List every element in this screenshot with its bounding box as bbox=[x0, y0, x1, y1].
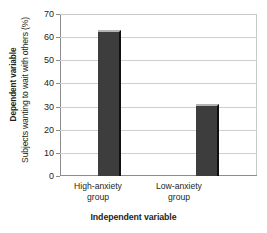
y-tick-label-50: 50 bbox=[44, 55, 54, 65]
y-tick-mark-20 bbox=[56, 130, 60, 131]
gridline-50 bbox=[60, 60, 257, 61]
y-axis-title: Subjects wanting to wait with others (%) bbox=[20, 10, 30, 170]
y-tick-label-10: 10 bbox=[44, 148, 54, 158]
gridline-40 bbox=[60, 83, 257, 84]
y-tick-label-0: 0 bbox=[49, 171, 54, 181]
y-tick-mark-50 bbox=[56, 60, 60, 61]
y-tick-label-40: 40 bbox=[44, 78, 54, 88]
gridline-60 bbox=[60, 37, 257, 38]
y-tick-mark-60 bbox=[56, 37, 60, 38]
y-tick-mark-30 bbox=[56, 107, 60, 108]
plot-area bbox=[60, 14, 257, 176]
gridline-10 bbox=[60, 153, 257, 154]
gridline-20 bbox=[60, 130, 257, 131]
y-tick-mark-70 bbox=[56, 14, 60, 15]
y-tick-mark-0 bbox=[56, 176, 60, 177]
y-tick-mark-10 bbox=[56, 153, 60, 154]
bar-chart-figure: Dependent variable Subjects wanting to w… bbox=[0, 0, 267, 233]
gridline-30 bbox=[60, 107, 257, 108]
dependent-variable-label: Dependent variable bbox=[9, 20, 18, 150]
y-tick-label-30: 30 bbox=[44, 102, 54, 112]
gridline-70 bbox=[60, 14, 257, 15]
y-tick-label-70: 70 bbox=[44, 9, 54, 19]
gridline-0 bbox=[60, 175, 257, 176]
x-tick-label-low-anxiety: Low-anxiety group bbox=[131, 181, 227, 203]
bar-low-anxiety-group bbox=[196, 104, 219, 176]
y-tick-label-60: 60 bbox=[44, 32, 54, 42]
plot-region: 706050403020100 bbox=[60, 14, 257, 176]
bar-high-anxiety-group bbox=[98, 30, 121, 176]
y-tick-mark-40 bbox=[56, 83, 60, 84]
y-tick-label-20: 20 bbox=[44, 125, 54, 135]
x-axis-title: Independent variable bbox=[0, 212, 267, 222]
